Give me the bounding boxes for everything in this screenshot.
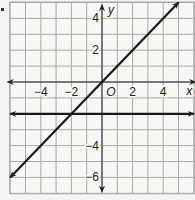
x-axis-label: x <box>185 84 193 98</box>
y-tick-label: −4 <box>85 139 99 153</box>
x-tick-label: 2 <box>129 85 136 99</box>
y-tick-label: 2 <box>92 43 99 57</box>
y-tick-label: −6 <box>85 170 99 184</box>
x-tick-label: −4 <box>34 85 48 99</box>
x-tick-label: −2 <box>65 85 79 99</box>
origin-label: O <box>106 85 115 99</box>
y-axis-label: y <box>107 3 115 17</box>
x-tick-label: 4 <box>160 85 167 99</box>
y-tick-label: 4 <box>92 11 99 25</box>
coordinate-graph: −4−22442−4−6Oxy <box>0 0 195 200</box>
